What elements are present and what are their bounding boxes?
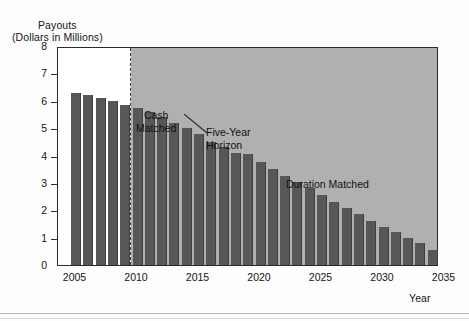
x-axis-title: Year: [409, 292, 431, 305]
y-tick-label-0: 0: [25, 260, 47, 271]
bar-2021: [268, 169, 278, 265]
bar-2027: [342, 208, 352, 265]
bar-2005: [71, 93, 81, 265]
page-divider-top: [0, 313, 469, 314]
x-tick-label-2025: 2025: [298, 271, 344, 283]
bar-2017: [219, 147, 229, 265]
plot-area: Cash Matched Five-Year Horizon Duration …: [57, 47, 438, 266]
annotation-cash-matched: Cash Matched: [136, 109, 176, 134]
y-tick-label-6: 6: [25, 96, 47, 107]
y-tick-label-8: 8: [25, 41, 47, 52]
y-tick-label-1: 1: [25, 233, 47, 244]
bar-2029: [366, 221, 376, 265]
bar-2019: [243, 154, 253, 265]
x-tick-label-2030: 2030: [359, 271, 405, 283]
bar-2007: [96, 98, 106, 265]
y-tick-label-5: 5: [25, 123, 47, 134]
bar-2023: [292, 182, 302, 265]
y-axis-title-line1: Payouts: [38, 19, 77, 32]
bar-2015: [194, 134, 204, 265]
bar-2018: [231, 153, 241, 265]
x-tick-label-2010: 2010: [113, 271, 159, 283]
bar-2031: [391, 232, 401, 265]
bar-2012: [157, 117, 167, 265]
y-tick-label-3: 3: [25, 178, 47, 189]
bar-2026: [329, 202, 339, 265]
bar-2009: [120, 105, 130, 265]
bar-2016: [206, 142, 216, 265]
bar-series: [58, 48, 437, 265]
y-tick-label-2: 2: [25, 205, 47, 216]
bar-2008: [108, 101, 118, 265]
annotation-duration-matched: Duration Matched: [286, 178, 369, 191]
bar-2034: [428, 250, 438, 265]
bar-2006: [83, 95, 93, 265]
bar-2020: [256, 162, 266, 265]
bar-2032: [403, 238, 413, 265]
bar-2028: [354, 214, 364, 265]
y-tick-label-7: 7: [25, 68, 47, 79]
y-tick-label-4: 4: [25, 151, 47, 162]
bar-2011: [145, 112, 155, 265]
bar-2033: [415, 243, 425, 265]
annotation-five-year-horizon: Five-Year Horizon: [206, 126, 251, 151]
bar-2014: [182, 128, 192, 265]
bar-2013: [169, 123, 179, 265]
x-tick-label-2005: 2005: [52, 271, 98, 283]
bar-2024: [305, 188, 315, 265]
x-tick-label-2035: 2035: [421, 271, 467, 283]
x-tick-label-2015: 2015: [175, 271, 221, 283]
x-tick-label-2020: 2020: [236, 271, 282, 283]
bar-2030: [379, 227, 389, 265]
bar-2025: [317, 195, 327, 265]
page-divider-bottom: [0, 318, 469, 319]
payouts-bar-chart: Payouts (Dollars in Millions) Year 87654…: [0, 0, 469, 321]
